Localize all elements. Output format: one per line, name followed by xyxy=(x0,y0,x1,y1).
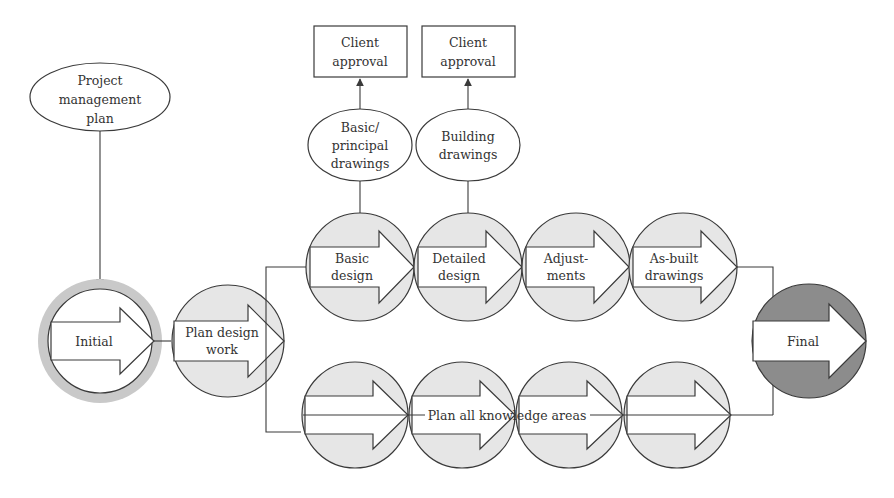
node-label-line: management xyxy=(59,92,142,107)
node-label-line: ments xyxy=(547,268,586,283)
node-label-line: Project xyxy=(77,73,122,88)
node-label-line: Plan design xyxy=(185,325,259,340)
node-label-line: Client xyxy=(449,35,487,50)
as-built-drawings-node: As-built drawings xyxy=(629,213,737,321)
node-label-line: design xyxy=(331,268,373,283)
node-label-line: Basic xyxy=(335,251,369,266)
node-label: Initial xyxy=(75,334,112,349)
node-label-line: principal xyxy=(332,138,388,153)
node-label-line: drawings xyxy=(331,156,390,171)
node-label-line: Building xyxy=(441,129,494,144)
initial-node: Initial xyxy=(38,279,162,403)
node-label-line: Client xyxy=(341,35,379,50)
top-row: Basic design Detailed design Adjust- men… xyxy=(306,213,737,321)
detailed-design-node: Detailed design xyxy=(414,213,522,321)
node-label-line: work xyxy=(206,342,238,357)
node-label-line: approval xyxy=(332,54,387,69)
adjustments-node: Adjust- ments xyxy=(522,213,630,321)
client-approval-box: Client approval xyxy=(422,26,515,77)
node-label: Final xyxy=(787,334,819,349)
node-label-line: drawings xyxy=(645,268,704,283)
basic-principal-drawings-node: Basic/ principal drawings xyxy=(308,109,412,181)
node-label-line: Detailed xyxy=(432,251,485,266)
node-label-line: design xyxy=(438,268,480,283)
final-node: Final xyxy=(752,284,866,398)
basic-design-node: Basic design xyxy=(306,213,414,321)
node-label-line: drawings xyxy=(439,147,498,162)
node-label-line: Basic/ xyxy=(341,120,380,135)
node-label-line: As-built xyxy=(649,251,699,266)
bottom-row: Plan all knowledge areas xyxy=(302,362,773,468)
knowledge-areas-label: Plan all knowledge areas xyxy=(428,408,587,423)
project-management-plan-node: Project management plan xyxy=(30,63,170,131)
plan-design-work-node: Plan design work xyxy=(172,285,284,397)
building-drawings-node: Building drawings xyxy=(416,109,520,181)
client-approval-box: Client approval xyxy=(314,26,407,77)
node-label-line: Adjust- xyxy=(543,251,589,266)
node-label-line: plan xyxy=(86,111,114,126)
node-label-line: approval xyxy=(440,54,495,69)
project-process-diagram: Project management plan Initial Plan des… xyxy=(0,0,894,498)
